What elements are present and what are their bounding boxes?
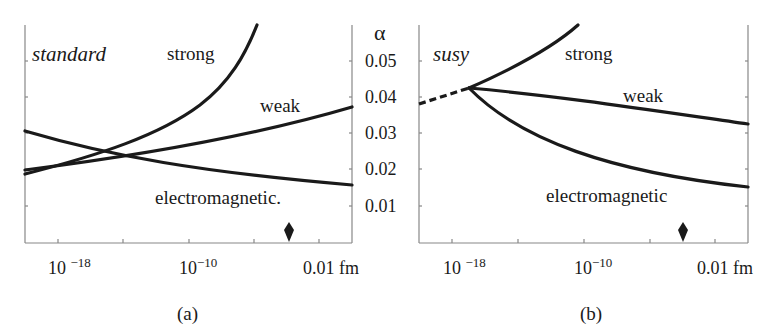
x-tick-b-2: 10−10 (574, 259, 612, 277)
curve-b-weak (469, 88, 748, 124)
x-tick-a-2: 10−10 (179, 259, 217, 277)
y-axis-symbol: α (374, 22, 386, 44)
label-b-weak: weak (623, 86, 663, 105)
label-a-strong: strong (167, 44, 215, 63)
panel-b-title: susy (433, 44, 469, 65)
caption-b: (b) (580, 303, 602, 325)
panel-a-title: standard (32, 44, 106, 65)
y-tick-002: 0.02 (365, 160, 397, 178)
x-tick-a-1: 10 −18 (48, 259, 91, 277)
label-a-weak: weak (260, 96, 300, 115)
y-tick-003: 0.03 (365, 124, 397, 142)
x-tick-b-3: 0.01 fm (697, 259, 753, 277)
marker-arrow-b (678, 222, 688, 242)
curve-b-unified-dashed (419, 88, 469, 104)
y-tick-004: 0.04 (365, 88, 397, 106)
x-tick-a-3: 0.01 fm (303, 259, 359, 277)
curve-a-electromagnetic (25, 131, 352, 185)
x-tick-b-1: 10 −18 (443, 259, 486, 277)
label-b-strong: strong (565, 44, 613, 63)
label-b-electromagnetic: electromagnetic (546, 186, 667, 205)
y-tick-001: 0.01 (365, 197, 397, 215)
y-tick-005: 0.05 (365, 52, 397, 70)
curve-b-strong (469, 25, 578, 88)
marker-arrow-a (284, 222, 294, 242)
caption-a: (a) (177, 303, 198, 325)
label-a-electromagnetic: electromagnetic. (155, 188, 281, 207)
